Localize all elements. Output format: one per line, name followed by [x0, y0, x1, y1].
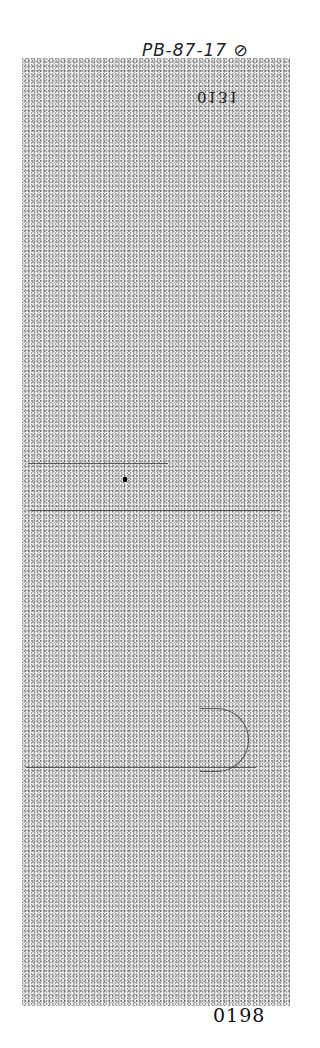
ruled-line	[30, 510, 280, 511]
ruled-line	[28, 463, 168, 464]
page-number: 0198	[213, 1004, 265, 1026]
ruled-line	[26, 767, 256, 768]
scanned-page-noise	[22, 58, 290, 1006]
handwritten-annotation: PB-87-17 ⊘	[142, 40, 249, 60]
ink-mark	[123, 477, 127, 482]
inverted-stamp-number: 0131	[197, 88, 239, 106]
